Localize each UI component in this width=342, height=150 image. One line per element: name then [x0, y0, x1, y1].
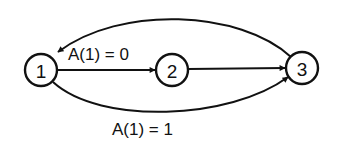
edge-label-a1-eq-1: A(1) = 1 — [112, 120, 173, 139]
node-1-label: 1 — [36, 61, 47, 82]
edge-2-to-3 — [188, 68, 285, 69]
node-1: 1 — [25, 54, 57, 86]
node-3: 3 — [286, 52, 318, 84]
diagram-canvas: 1 2 3 A(1) = 0 A(1) = 1 — [0, 0, 342, 150]
node-3-label: 3 — [297, 59, 308, 80]
node-2: 2 — [156, 54, 188, 86]
edge-label-a1-eq-0: A(1) = 0 — [68, 45, 129, 64]
node-2-label: 2 — [167, 61, 178, 82]
